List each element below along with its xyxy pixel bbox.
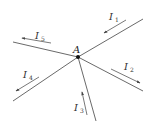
svg-text:I: I bbox=[34, 30, 40, 41]
current-label-i4: I 4 bbox=[22, 69, 33, 81]
svg-text:I: I bbox=[73, 102, 79, 113]
wire-1 bbox=[78, 19, 143, 57]
current-label-i3: I 3 bbox=[73, 102, 84, 114]
node-a-dot bbox=[76, 55, 80, 59]
svg-text:3: 3 bbox=[80, 107, 84, 114]
wire-5 bbox=[13, 42, 78, 57]
current-label-i5: I 5 bbox=[34, 30, 45, 42]
node-current-diagram: A I 1 I 5 I 2 I 4 I 3 bbox=[0, 0, 151, 130]
svg-text:2: 2 bbox=[130, 66, 134, 73]
node-a-label: A bbox=[72, 44, 80, 55]
svg-text:I: I bbox=[108, 11, 114, 22]
current-arrow-i4 bbox=[16, 77, 39, 91]
wire-2 bbox=[78, 57, 143, 91]
svg-text:I: I bbox=[123, 61, 129, 72]
svg-text:5: 5 bbox=[41, 35, 45, 42]
svg-text:I: I bbox=[22, 69, 28, 80]
current-label-i1: I 1 bbox=[108, 11, 119, 23]
current-label-i2: I 2 bbox=[123, 61, 134, 73]
svg-text:4: 4 bbox=[29, 74, 33, 81]
svg-text:1: 1 bbox=[115, 16, 119, 23]
